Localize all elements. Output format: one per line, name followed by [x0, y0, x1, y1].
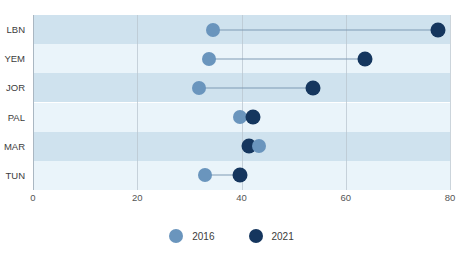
- data-point-2021[interactable]: [233, 168, 248, 183]
- chart-row: [33, 161, 450, 190]
- y-axis-labels: LBN YEM JOR PAL MAR TUN: [0, 15, 31, 190]
- legend-label: 2016: [192, 231, 214, 242]
- x-axis-ticks: 020406080: [33, 192, 450, 208]
- chart-row: [33, 15, 450, 44]
- y-axis-line: [33, 15, 34, 190]
- connector-line: [199, 87, 313, 88]
- y-axis-label: YEM: [4, 44, 25, 73]
- connector-line: [209, 58, 365, 59]
- data-point-2016[interactable]: [252, 139, 266, 153]
- legend-item-2016[interactable]: 2016: [169, 229, 214, 243]
- chart-row: [33, 132, 450, 161]
- chart-row: [33, 103, 450, 132]
- legend-label: 2021: [272, 231, 294, 242]
- y-axis-label: MAR: [4, 132, 25, 161]
- data-point-2021[interactable]: [245, 110, 260, 125]
- data-point-2016[interactable]: [198, 168, 212, 182]
- circle-icon: [169, 229, 183, 243]
- data-point-2021[interactable]: [305, 80, 320, 95]
- circle-icon: [249, 229, 263, 243]
- chart-row: [33, 44, 450, 73]
- y-axis-label: PAL: [8, 103, 25, 132]
- chart-row: [33, 73, 450, 102]
- y-axis-label: JOR: [6, 73, 25, 102]
- dumbbell-chart: LBN YEM JOR PAL MAR TUN 020406080 2016 2…: [0, 0, 463, 254]
- data-point-2021[interactable]: [358, 51, 373, 66]
- data-point-2016[interactable]: [202, 52, 216, 66]
- y-axis-label: LBN: [7, 15, 25, 44]
- y-axis-label: TUN: [5, 161, 25, 190]
- connector-line: [213, 29, 438, 30]
- x-axis-tick-label: 60: [340, 192, 351, 203]
- data-point-2016[interactable]: [206, 23, 220, 37]
- plot-area: [33, 15, 450, 190]
- data-point-2021[interactable]: [431, 22, 446, 37]
- x-axis-tick-label: 40: [236, 192, 247, 203]
- chart-legend: 2016 2021: [0, 224, 463, 248]
- x-axis-tick-label: 20: [132, 192, 143, 203]
- data-point-2016[interactable]: [192, 81, 206, 95]
- x-axis-tick-label: 0: [30, 192, 35, 203]
- legend-item-2021[interactable]: 2021: [249, 229, 294, 243]
- x-axis-tick-label: 80: [445, 192, 456, 203]
- gridline: [450, 15, 451, 190]
